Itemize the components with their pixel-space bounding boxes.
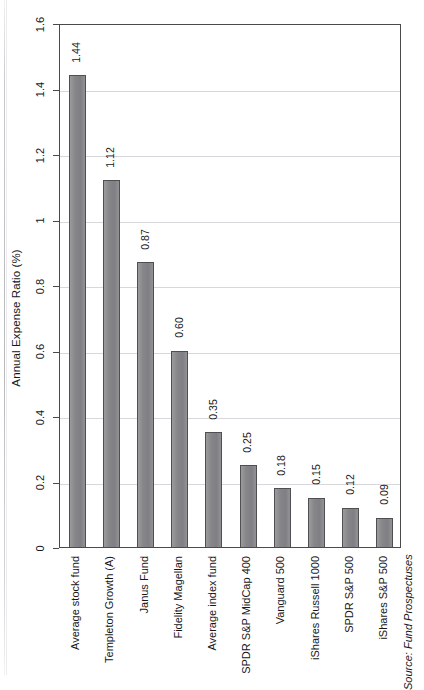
- y-axis-tick-label: 0.8: [34, 269, 47, 303]
- x-axis-label: Templeton Growth (A): [103, 554, 117, 678]
- bar[interactable]: [308, 498, 325, 547]
- bar[interactable]: [240, 465, 257, 547]
- bar-fill: [343, 509, 358, 547]
- y-axis-tick-label: 0: [34, 531, 47, 565]
- bar-fill: [309, 499, 324, 547]
- bar[interactable]: [137, 262, 154, 547]
- bar-value-label: 1.12: [104, 136, 117, 178]
- bar[interactable]: [205, 432, 222, 547]
- bar-value-label: 0.35: [206, 388, 219, 430]
- y-axis-tick-label: 0.4: [34, 400, 47, 434]
- y-axis-tick-label: 1.4: [34, 73, 47, 107]
- x-axis-label: Janus Fund: [138, 554, 152, 678]
- bar[interactable]: [274, 488, 291, 547]
- y-axis-tick-label: 1: [34, 204, 47, 238]
- bar-value-label: 0.25: [241, 421, 254, 463]
- x-axis-label: Average index fund: [206, 554, 220, 678]
- bar-value-label: 1.44: [70, 31, 83, 73]
- bar-value-label: 0.60: [172, 307, 185, 349]
- x-axis-label: Vanguard 500: [274, 554, 288, 678]
- x-axis-label: iShares S&P 500: [377, 554, 391, 678]
- y-axis-tick-label: 1.2: [34, 138, 47, 172]
- bar[interactable]: [69, 75, 86, 547]
- bar-fill: [377, 519, 392, 547]
- bar[interactable]: [342, 508, 359, 547]
- bar[interactable]: [376, 518, 393, 547]
- bar-value-label: 0.09: [377, 474, 390, 516]
- bar-fill: [138, 263, 153, 547]
- bar-value-label: 0.12: [343, 464, 356, 506]
- x-axis-label: iShares Russell 1000: [309, 554, 323, 678]
- bar-fill: [275, 489, 290, 547]
- x-axis-label: Fidelity Magellan: [172, 554, 186, 678]
- bar-value-label: 0.15: [309, 454, 322, 496]
- bar-fill: [70, 76, 85, 547]
- y-axis-tick-mark: [53, 548, 59, 549]
- bar-fill: [206, 433, 221, 547]
- bar-fill: [172, 352, 187, 548]
- y-axis-tick-label: 1.6: [34, 7, 47, 41]
- bar-value-label: 0.18: [275, 444, 288, 486]
- x-axis-label: SPDR S&P MidCap 400: [240, 554, 254, 678]
- bar-fill: [104, 181, 119, 547]
- x-axis-label: Average stock fund: [69, 554, 83, 678]
- y-axis-tick-label: 0.2: [34, 466, 47, 500]
- bar[interactable]: [171, 351, 188, 548]
- bar[interactable]: [103, 180, 120, 547]
- x-axis-label: SPDR S&P 500: [343, 554, 357, 678]
- bar-fill: [241, 466, 256, 547]
- source-note: Source: Fund Prospectuses: [402, 540, 416, 690]
- bar-value-label: 0.87: [138, 218, 151, 260]
- y-axis-tick-label: 0.6: [34, 335, 47, 369]
